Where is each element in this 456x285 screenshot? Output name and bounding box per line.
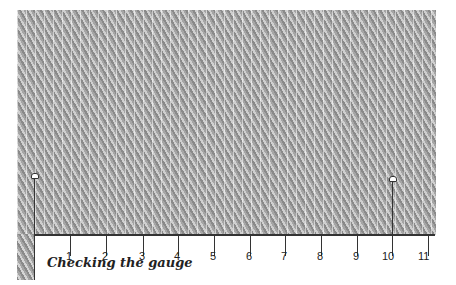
ruler-label: 8 (317, 250, 323, 262)
ruler-axis (35, 234, 435, 236)
fabric-edge-column (17, 234, 35, 280)
pin-head-icon (31, 173, 39, 179)
ruler-label: 9 (353, 250, 359, 262)
ruler-label: 6 (246, 250, 252, 262)
pin-shaft (34, 178, 35, 234)
pin-head-icon (389, 176, 397, 182)
ruler-label: 11 (418, 250, 429, 262)
ruler-label: 5 (210, 250, 216, 262)
ruler-label: 10 (382, 250, 394, 262)
caption: Checking the gauge (47, 255, 193, 270)
ruler-label: 7 (281, 250, 287, 262)
knitted-fabric-swatch (17, 10, 436, 235)
